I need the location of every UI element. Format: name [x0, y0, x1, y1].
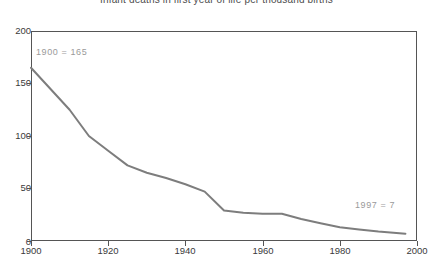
- series-layer: [0, 0, 433, 266]
- annotation-start-value: 1900 = 165: [36, 47, 87, 57]
- chart-container: Infant deaths in first year of life per …: [0, 0, 433, 266]
- x-tick-label-2000: 2000: [395, 246, 433, 256]
- x-tick-label-1960: 1960: [241, 246, 285, 256]
- data-line-infant-deaths: [31, 68, 405, 234]
- annotation-end-value: 1997 = 7: [355, 200, 395, 210]
- x-tick-label-1900: 1900: [9, 246, 53, 256]
- x-tick-label-1920: 1920: [86, 246, 130, 256]
- x-tick-label-1940: 1940: [163, 246, 207, 256]
- x-tick-label-1980: 1980: [318, 246, 362, 256]
